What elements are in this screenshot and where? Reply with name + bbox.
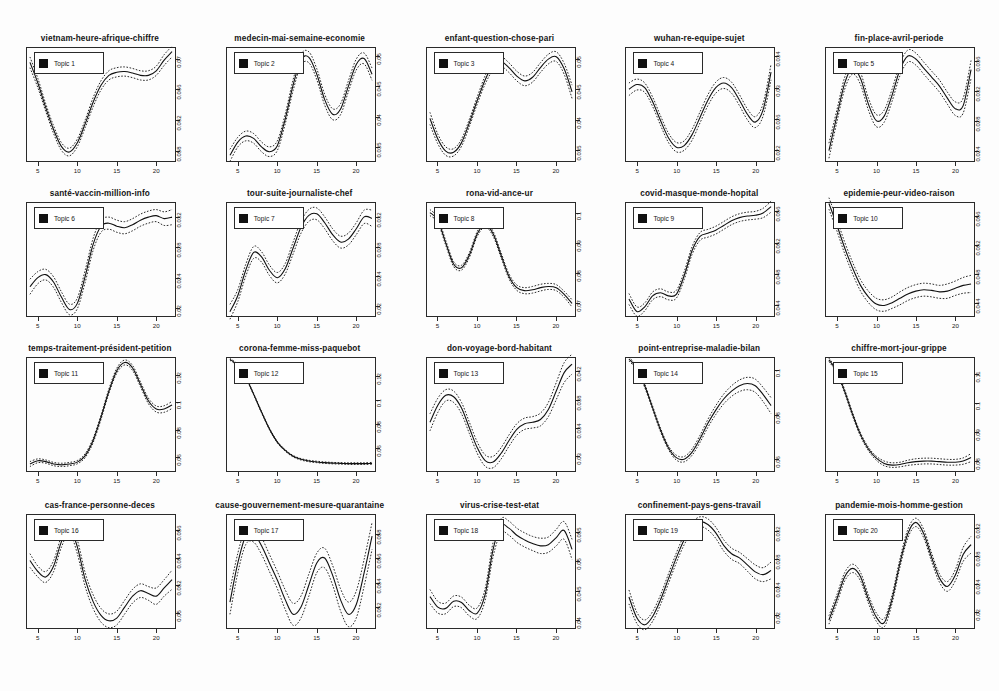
x-axis: 5101520 [226,162,376,163]
panel-topic-20: pandemie-mois-homme-gestionTopic 2051015… [799,497,999,652]
x-tick-label: 20 [752,634,759,641]
x-tick-label: 5 [36,322,39,329]
x-tick [437,162,438,166]
x-tick [238,317,239,321]
panel-topic-13: don-voyage-bord-habitantTopic 1351015200… [400,340,600,495]
legend-box: Topic 15 [833,362,903,384]
y-tick-label: 0.05 [576,558,582,570]
x-axis: 5101520 [426,629,576,630]
x-tick-label: 20 [752,167,759,174]
x-tick [756,629,757,633]
panel-title: medecin-mai-semaine-economie [200,34,400,43]
y-tick-label: 0.044 [975,298,981,313]
x-tick [837,162,838,166]
legend-box: Topic 14 [633,362,703,384]
y-axis: 0.0220.0260.030.034 [775,47,776,162]
legend-box: Topic 8 [434,207,504,229]
y-axis: 0.020.0240.0280.032 [975,514,976,629]
legend-label: Topic 18 [454,527,479,534]
x-tick [317,162,318,166]
y-tick-label: 0.036 [975,56,981,71]
y-tick-label: 0.045 [576,586,582,601]
legend-box: Topic 2 [234,52,304,74]
confidence-band-lower [829,527,971,628]
mean-prevalence-line [30,216,172,310]
x-tick [877,162,878,166]
x-tick-label: 15 [913,634,920,641]
confidence-band-lower [629,527,771,630]
x-tick-label: 20 [952,322,959,329]
x-tick-label: 5 [36,634,39,641]
y-tick-label: 0.06 [376,445,382,457]
x-tick [117,472,118,476]
x-tick [238,629,239,633]
panel-title: tour-suite-journaliste-chef [200,189,400,198]
x-tick [477,317,478,321]
y-tick-label: 0.035 [576,145,582,160]
x-tick-label: 5 [436,167,439,174]
y-tick-label: 0.12 [176,372,182,384]
x-axis: 5101520 [825,629,975,630]
panel-topic-3: enfant-question-chose-pariTopic 35101520… [400,30,600,185]
x-axis: 5101520 [825,472,975,473]
y-tick-label: 0.028 [975,116,981,131]
x-axis: 5101520 [426,317,576,318]
x-tick [837,317,838,321]
panel-title: fin-place-avril-periode [799,34,999,43]
y-tick-label: 0.052 [176,581,182,596]
y-tick-label: 0.035 [376,142,382,157]
panel-title: chiffre-mort-jour-grippe [799,344,999,353]
y-tick-label: 0.034 [576,423,582,438]
x-tick-label: 5 [835,477,838,484]
legend-box: Topic 5 [833,52,903,74]
y-tick-label: 0.056 [376,554,382,569]
y-tick-label: 0.024 [176,273,182,288]
y-tick-label: 0.03 [576,454,582,466]
x-tick-label: 20 [952,634,959,641]
x-tick [77,629,78,633]
panel-topic-2: medecin-mai-semaine-economieTopic 251015… [200,30,400,185]
panel-topic-16: cas-france-personne-decesTopic 165101520… [0,497,200,652]
x-tick-label: 20 [752,322,759,329]
x-tick [317,472,318,476]
x-tick [916,629,917,633]
topic-prevalence-figure: vietnam-heure-afrique-chiffreTopic 15101… [0,0,999,691]
y-tick-label: 0.08 [376,421,382,433]
x-tick-label: 20 [552,477,559,484]
y-tick-label: 0.02 [176,305,182,317]
panel-topic-18: virus-crise-test-etatTopic 1851015200.04… [400,497,600,652]
x-tick-label: 15 [113,477,120,484]
y-axis: 0.020.0240.0280.032 [176,202,177,317]
legend-label: Topic 15 [853,370,878,377]
x-tick-label: 5 [436,477,439,484]
x-tick [117,629,118,633]
y-tick-label: 0.09 [975,429,981,441]
x-tick [238,162,239,166]
y-tick-label: 0.1 [376,399,382,407]
y-tick-label: 0.032 [975,523,981,538]
x-tick [877,317,878,321]
x-tick-label: 10 [473,634,480,641]
x-tick-label: 10 [673,167,680,174]
x-tick [556,629,557,633]
confidence-band-lower [230,61,372,161]
y-tick-label: 0.06 [176,454,182,466]
y-axis: 0.060.080.10.12 [376,357,377,472]
x-tick-label: 15 [713,167,720,174]
x-tick-label: 5 [635,322,638,329]
y-tick-label: 0.08 [975,458,981,470]
y-axis: 0.020.0240.0280.032 [376,202,377,317]
legend-square-icon [39,59,48,68]
panel-topic-11: temps-traitement-président-petitionTopic… [0,340,200,495]
x-tick-label: 20 [552,322,559,329]
x-tick [756,317,757,321]
panel-title: cas-france-personne-deces [0,501,200,510]
panel-title: rona-vid-ance-ur [400,189,600,198]
panel-topic-17: cause-gouvernement-mesure-quarantaineTop… [200,497,400,652]
x-tick-label: 20 [353,477,360,484]
x-tick-label: 15 [113,322,120,329]
y-tick-label: 0.1 [176,401,182,409]
y-tick-label: 0.03 [775,85,781,97]
x-tick [516,162,517,166]
y-tick-label: 0.06 [775,456,781,468]
